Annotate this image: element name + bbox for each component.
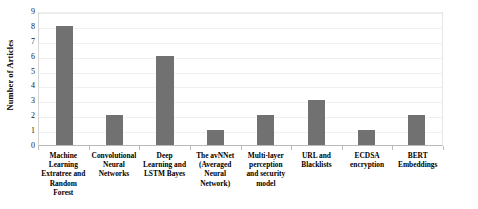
y-axis-tick-label: 4 — [31, 82, 35, 90]
x-axis-category-label-line: Random — [39, 179, 88, 188]
bar[interactable] — [207, 130, 224, 145]
y-axis-tick-labels: 0123456789 — [20, 12, 36, 146]
x-axis-category-label: ConvolutionalNeuralNetworks — [89, 151, 140, 207]
x-axis-category-label-line: (Averaged — [191, 160, 240, 169]
x-axis-category-label-line: Network) — [191, 179, 240, 188]
bars-layer — [39, 13, 442, 145]
y-axis-tick-label: 0 — [31, 142, 35, 150]
bar-slot — [39, 13, 89, 145]
bar[interactable] — [358, 130, 375, 145]
x-axis-category-label-line: The avNNet — [191, 151, 240, 160]
bar-slot — [89, 13, 139, 145]
x-axis-tick — [291, 146, 292, 150]
x-axis-category-labels: MachineLearningExtratree andRandomForest… — [38, 151, 443, 207]
x-axis-ticks — [38, 146, 443, 150]
x-axis-category-label: ECDSAencryption — [342, 151, 393, 207]
y-axis-tick-label: 2 — [31, 112, 35, 120]
x-axis-category-label-line: Neural — [191, 169, 240, 178]
x-axis-category-label-line: Embeddings — [393, 160, 442, 169]
bar[interactable] — [56, 26, 73, 145]
x-axis-category-label-line: ECDSA — [343, 151, 392, 160]
x-axis-tick — [89, 146, 90, 150]
x-axis-category-label-line: Networks — [90, 169, 139, 178]
y-axis-tick-label: 1 — [31, 127, 35, 135]
bar-slot — [341, 13, 391, 145]
x-axis-category-label-line: Learning and — [140, 160, 189, 169]
x-axis-category-label-line: LSTM Bayes — [140, 169, 189, 178]
bar[interactable] — [156, 56, 173, 145]
y-axis-tick-label: 9 — [31, 8, 35, 16]
x-axis-category-label-line: Blacklists — [292, 160, 341, 169]
y-axis-tick-label: 8 — [31, 23, 35, 31]
x-axis-category-label-line: Machine — [39, 151, 88, 160]
x-axis-category-label: The avNNet(AveragedNeuralNetwork) — [190, 151, 241, 207]
y-axis-tick-label: 3 — [31, 97, 35, 105]
bar[interactable] — [257, 115, 274, 145]
x-axis-tick — [443, 146, 444, 150]
bar[interactable] — [106, 115, 123, 145]
bar-chart-figure: Number of Articles 0123456789 MachineLea… — [0, 0, 478, 209]
bar-slot — [140, 13, 190, 145]
y-axis-title-text: Number of Articles — [5, 39, 15, 110]
y-axis-tick-label: 7 — [31, 38, 35, 46]
x-axis-tick — [190, 146, 191, 150]
x-axis-tick — [392, 146, 393, 150]
x-axis-category-label-line: and security — [242, 169, 291, 178]
x-axis-category-label-line: Forest — [39, 188, 88, 197]
x-axis-category-label: URL andBlacklists — [291, 151, 342, 207]
x-axis-category-label-line: Extratree and — [39, 169, 88, 178]
x-axis-category-label-line: Neural — [90, 160, 139, 169]
bar-slot — [190, 13, 240, 145]
plot-area — [38, 12, 443, 146]
x-axis-category-label: DeepLearning andLSTM Bayes — [139, 151, 190, 207]
x-axis-tick — [241, 146, 242, 150]
x-axis-tick — [139, 146, 140, 150]
x-axis-category-label: MachineLearningExtratree andRandomForest — [38, 151, 89, 207]
y-axis-tick-label: 6 — [31, 53, 35, 61]
x-axis-tick — [38, 146, 39, 150]
bar-slot — [392, 13, 442, 145]
bar[interactable] — [408, 115, 425, 145]
x-axis-category-label-line: Deep — [140, 151, 189, 160]
x-axis-category-label-line: encryption — [343, 160, 392, 169]
bar[interactable] — [308, 100, 325, 145]
bar-slot — [291, 13, 341, 145]
x-axis-category-label-line: URL and — [292, 151, 341, 160]
bar-slot — [241, 13, 291, 145]
x-axis-category-label-line: Convolutional — [90, 151, 139, 160]
x-axis-category-label-line: Multi-layer — [242, 151, 291, 160]
x-axis-category-label-line: perception — [242, 160, 291, 169]
y-axis-tick-label: 5 — [31, 68, 35, 76]
x-axis-tick — [342, 146, 343, 150]
x-axis-category-label: BERTEmbeddings — [392, 151, 443, 207]
x-axis-category-label-line: model — [242, 179, 291, 188]
x-axis-category-label-line: BERT — [393, 151, 442, 160]
x-axis-category-label-line: Learning — [39, 160, 88, 169]
y-axis-title: Number of Articles — [2, 0, 18, 150]
x-axis-category-label: Multi-layerperceptionand securitymodel — [241, 151, 292, 207]
